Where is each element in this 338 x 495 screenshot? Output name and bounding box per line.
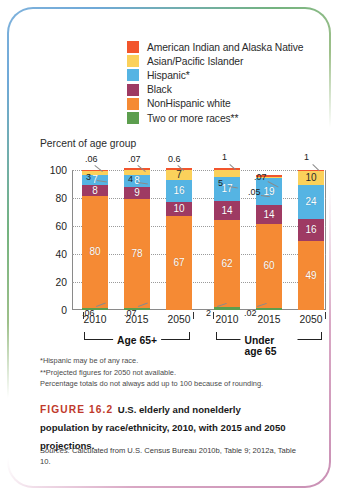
figure-number: FIGURE 16.2 [40,404,113,415]
bar-segment-label: 7 [176,170,182,180]
bar-segment-label: 9 [134,188,140,198]
x-axis-tick-mark [325,312,326,319]
bar-segment-label: 14 [221,206,232,216]
y-axis-tick-label: 100 [50,165,67,176]
gridline [72,170,326,171]
bar-segment-label: 16 [173,186,184,196]
figure-card: American Indian and Alaska Native Asian/… [7,7,331,488]
bar-segment-label: 10 [305,173,316,183]
gridline [72,254,326,255]
bar-age-65-2015: 7898 [124,168,150,310]
callout-aian-under65-2015: .07 [254,172,267,182]
bar-segment: 24 [298,185,324,219]
bar-segment: 14 [214,201,240,221]
legend-label-aian: American Indian and Alaska Native [147,42,303,53]
callout-aian-65plus-2050: 0.6 [168,154,181,164]
bar-segment: 67 [166,216,192,310]
x-axis-tick-mark [213,312,214,319]
legend-swatch-aian [127,41,139,53]
y-axis-tick-label: 0 [61,305,67,316]
bar-segment: 16 [298,219,324,241]
legend-label-two-or-more: Two or more races** [147,113,238,124]
bar-segment-label: 14 [263,210,274,220]
chart-legend: American Indian and Alaska Native Asian/… [127,40,303,125]
callout-asian-under65-2015: .05 [248,187,261,197]
legend-swatch-black [127,84,139,96]
bar-segment: 9 [124,187,150,200]
x-axis-group-label-under-age-65: Under age 65 [241,335,298,357]
x-axis: 201020152050201020152050Age 65+Under age… [72,312,326,354]
legend-swatch-asian [127,55,139,67]
x-axis-tick-label: 2050 [294,314,328,325]
legend-item: Black [127,83,303,97]
bar-under-age-65-2050: 49162410 [298,170,324,310]
legend-label-black: Black [147,84,172,95]
callout-aian-under65-2010: 1 [222,152,227,162]
legend-item: NonHispanic white [127,97,303,111]
sources-text: Calculated from U.S. Census Bureau 2010b… [40,446,296,466]
legend-swatch-white [127,98,139,110]
callout-asian-65plus-2010: 3 [86,172,91,182]
plot-area: 020406080100 808778986710167621417601419… [72,170,326,310]
bar-segment-label: 16 [305,225,316,235]
bar-segment-label: 10 [173,204,184,214]
bar-segment-label: 80 [89,247,100,257]
bar-segment [214,307,240,310]
x-axis-tick-label: 2010 [210,314,244,325]
bar-segment: 16 [166,180,192,202]
gridline [72,198,326,199]
bar-segment: 10 [166,202,192,216]
bar-segment: 60 [256,224,282,308]
bar-segment [166,168,192,170]
callout-aian-65plus-2015: .07 [128,154,141,164]
bar-segment: 10 [298,171,324,185]
x-axis-tick-label: 2015 [120,314,154,325]
legend-swatch-hispanic [127,69,139,81]
figure-caption: FIGURE 16.2 U.S. elderly and nonelderly … [40,399,292,453]
bar-segment: 62 [214,220,240,307]
y-axis-tick-label: 40 [56,249,67,260]
bar-segment: 78 [124,199,150,308]
bar-segment-label: 67 [173,258,184,268]
bar-segment: 7 [166,170,192,180]
bar-segment [256,308,282,310]
callout-aian-65plus-2010: .06 [85,154,98,164]
bar-segment [82,170,108,172]
bar-segment [124,168,150,170]
bar-segment: 14 [256,205,282,225]
legend-item: American Indian and Alaska Native [127,40,303,54]
figure-card-inner: American Indian and Alaska Native Asian/… [9,9,329,486]
bar-segment-label: 24 [305,197,316,207]
legend-item: Two or more races** [127,111,303,125]
bar-segment: 80 [82,196,108,308]
y-axis-tick-label: 80 [56,193,67,204]
bar-segment-label: 49 [305,271,316,281]
bar-segment: 49 [298,241,324,310]
sources-label: Sources: [40,446,70,455]
legend-swatch-two-or-more [127,112,139,124]
legend-label-hispanic: Hispanic* [147,70,190,81]
callout-aian-under65-2050: 1 [304,152,309,162]
y-axis-tick-label: 20 [56,277,67,288]
bar-age-65-2010: 8087 [82,170,108,310]
bar-under-age-65-2010: 621417 [214,168,240,310]
gridline [72,282,326,283]
legend-label-white: NonHispanic white [147,98,231,109]
legend-item: Hispanic* [127,68,303,82]
plot-frame [72,170,326,310]
footnote-hispanic: *Hispanic may be of any race. [40,355,290,367]
bar-segment-label: 78 [131,249,142,259]
x-axis-tick-label: 2050 [162,314,196,325]
bar-segment: 8 [82,185,108,196]
bar-segment-label: 8 [92,186,98,196]
bar-segment-label: 60 [263,261,274,271]
x-axis-group-label-age-65-plus: Age 65+ [113,335,161,346]
legend-label-asian: Asian/Pacific Islander [147,56,243,67]
figure-sources: Sources: Calculated from U.S. Census Bur… [40,446,296,467]
x-axis-tick-label: 2015 [252,314,286,325]
callout-asian-under65-2010: 5 [218,178,223,188]
gridline [72,226,326,227]
callout-asian-65plus-2015: 4 [128,174,133,184]
y-axis-tick-label: 60 [56,221,67,232]
legend-item: Asian/Pacific Islander [127,54,303,68]
